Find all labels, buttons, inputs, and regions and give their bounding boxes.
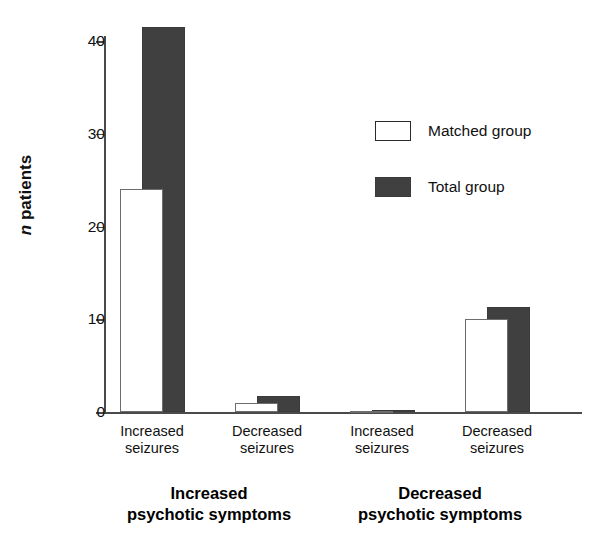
x-axis-group-label: Increasedpsychotic symptoms bbox=[79, 483, 339, 525]
x-axis-category-label-line: Increased bbox=[97, 423, 207, 440]
bar-matched-group bbox=[350, 411, 393, 413]
legend-item: Matched group bbox=[375, 118, 531, 144]
x-axis-category-label-line: Increased bbox=[327, 423, 437, 440]
legend-label: Total group bbox=[428, 179, 505, 195]
legend: Matched groupTotal group bbox=[375, 118, 531, 230]
x-axis-category-label-line: seizures bbox=[327, 440, 437, 457]
y-axis-title-rest: patients bbox=[16, 155, 35, 225]
x-axis-category-label: Decreasedseizures bbox=[212, 423, 322, 457]
y-axis-tick-label: 30 bbox=[59, 126, 105, 142]
legend-label: Matched group bbox=[428, 123, 531, 139]
x-axis-group-label-line: Increased bbox=[79, 483, 339, 504]
bar-chart: n patients 010203040 IncreasedseizuresDe… bbox=[0, 0, 598, 554]
y-axis-tick-label: 0 bbox=[59, 404, 105, 420]
y-axis-title-italic-part: n bbox=[16, 225, 35, 235]
y-axis-tick-label: 10 bbox=[59, 312, 105, 328]
x-axis-category-label-line: Decreased bbox=[442, 423, 552, 440]
x-axis-category-label-line: seizures bbox=[442, 440, 552, 457]
x-axis-group-label-line: psychotic symptoms bbox=[79, 504, 339, 525]
x-axis-group-label-line: psychotic symptoms bbox=[310, 504, 570, 525]
x-axis-category-label: Increasedseizures bbox=[327, 423, 437, 457]
x-axis-group-label-line: Decreased bbox=[310, 483, 570, 504]
bar-matched-group bbox=[120, 189, 163, 412]
x-axis-line bbox=[104, 412, 582, 414]
y-axis-tick-label: 20 bbox=[59, 219, 105, 235]
x-axis-group-label: Decreasedpsychotic symptoms bbox=[310, 483, 570, 525]
x-axis-category-label-line: Decreased bbox=[212, 423, 322, 440]
x-axis-category-label-line: seizures bbox=[212, 440, 322, 457]
legend-swatch-total bbox=[375, 177, 411, 197]
x-axis-category-label-line: seizures bbox=[97, 440, 207, 457]
y-axis-title: n patients bbox=[16, 135, 36, 255]
bar-matched-group bbox=[465, 319, 508, 412]
legend-item: Total group bbox=[375, 174, 531, 200]
bar-matched-group bbox=[235, 403, 278, 412]
x-axis-category-label: Decreasedseizures bbox=[442, 423, 552, 457]
y-axis-tick-label: 40 bbox=[59, 33, 105, 49]
x-axis-category-label: Increasedseizures bbox=[97, 423, 207, 457]
legend-swatch-matched bbox=[375, 121, 411, 141]
